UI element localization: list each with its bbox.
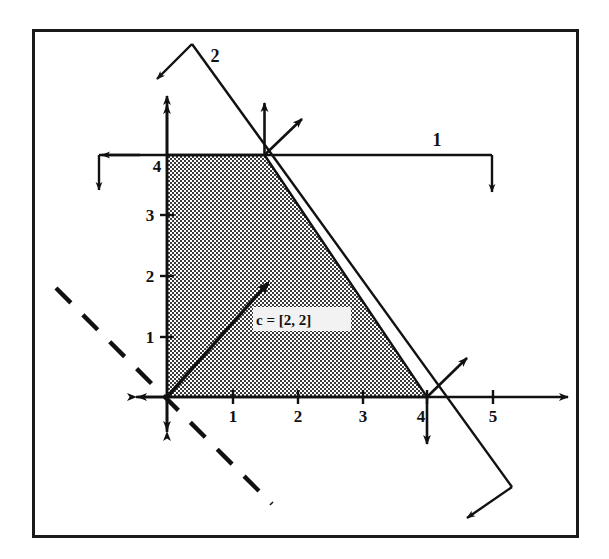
objective-vector-label: c = [2, 2] xyxy=(256,312,311,328)
x-tick-label-4: 4 xyxy=(417,407,426,426)
constraint-label-1: 1 xyxy=(433,130,442,150)
x-tick-label-2: 2 xyxy=(294,407,303,426)
linear-programming-figure: 1 2 3 4 5 1 2 3 4 1 2 xyxy=(0,0,609,559)
y-tick-label-3: 3 xyxy=(146,206,155,225)
y-tick-label-1: 1 xyxy=(146,328,155,347)
figure-container: 1 2 3 4 5 1 2 3 4 1 2 xyxy=(0,0,609,559)
x-tick-label-5: 5 xyxy=(489,407,498,426)
y-tick-label-4: 4 xyxy=(153,157,162,176)
x-tick-label-3: 3 xyxy=(359,407,368,426)
y-tick-label-2: 2 xyxy=(146,267,155,286)
x-tick-label-1: 1 xyxy=(229,407,238,426)
constraint-label-2: 2 xyxy=(211,46,220,66)
